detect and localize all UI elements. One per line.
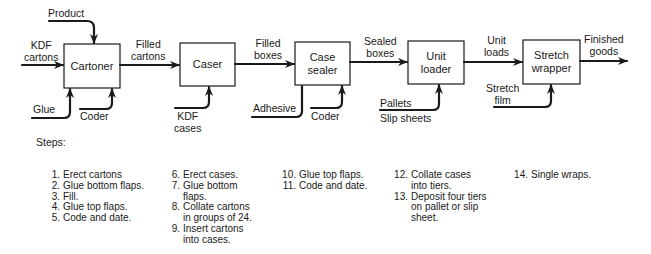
machine-label: Cartoner [71,60,114,73]
step-text: Insert cartons into cases. [183,224,244,246]
step-item: 13.Deposit four tiers on pallet or slip … [390,192,487,224]
steps-column-2: 6.Erect cases.7.Glue bottom flaps.8.Coll… [166,170,252,246]
step-text: Deposit four tiers on pallet or slip she… [411,192,487,224]
filled-cartons-label: Filled cartons [131,38,165,62]
stretch-film-label: Stretch film [486,82,519,106]
coder1-label: Coder [80,110,109,122]
caser-label: Caser [180,43,235,86]
step-number: 11. [278,181,299,192]
kdf-cartons-label: KDF cartons [24,39,58,63]
step-number: 8. [166,202,183,224]
pallets-label: Pallets [380,97,412,109]
step-item: 7.Glue bottom flaps. [166,181,252,203]
step-text: Single wraps. [531,170,591,181]
step-text: Collate cartons in groups of 24. [183,202,252,224]
step-number: 14. [510,170,531,181]
step-item: 11.Code and date. [278,181,367,192]
step-item: 8.Collate cartons in groups of 24. [166,202,252,224]
step-number: 7. [166,181,183,203]
sealed-boxes-label: Sealed boxes [364,35,397,59]
machine-label: Caser [193,58,222,71]
step-text: Code and date. [299,181,367,192]
step-text: Glue bottom flaps. [63,181,144,192]
slip-sheets-label: Slip sheets [380,112,431,124]
glue-label: Glue [33,103,55,115]
unit-loads-label: Unit loads [484,34,509,58]
steps-column-1: 1.Erect cartons2.Glue bottom flaps.3.Fil… [46,170,144,224]
coder1-arrow [80,89,112,109]
kdf-cases-arrow [175,87,209,108]
steps-column-5: 14.Single wraps. [510,170,591,181]
coder2-arrow [311,86,342,108]
step-number: 12. [390,170,411,192]
step-text: Collate cases into tiers. [411,170,471,192]
steps-column-4: 12.Collate cases into tiers.13.Deposit f… [390,170,487,224]
cartoner-label: Cartoner [64,44,120,88]
stretch-wrapper-label: Stretch wrapper [523,40,580,84]
machine-label: Stretch wrapper [532,49,572,75]
step-item: 2.Glue bottom flaps. [46,181,144,192]
coder2-label: Coder [311,110,340,122]
step-number: 13. [390,192,411,224]
finished-goods-label: Finished goods [584,33,624,57]
adhesive-label: Adhesive [253,102,296,114]
steps-column-3: 10.Glue top flaps.11.Code and date. [278,170,367,192]
step-number: 2. [46,181,63,192]
step-text: Glue bottom flaps. [183,181,237,203]
kdf-cases-label: KDF cases [174,110,201,134]
step-number: 9. [166,224,183,246]
machine-label: Case sealer [308,51,338,77]
step-item: 5.Code and date. [46,213,144,224]
product-label: Product [48,7,84,19]
machine-label: Unit loader [421,50,452,76]
case-sealer-label: Case sealer [295,42,350,85]
filled-boxes-label: Filled boxes [254,37,282,61]
steps-heading: Steps: [36,136,66,148]
step-number: 5. [46,213,63,224]
step-item: 14.Single wraps. [510,170,591,181]
step-item: 12.Collate cases into tiers. [390,170,487,192]
unit-loader-label: Unit loader [408,41,464,84]
step-text: Code and date. [63,213,131,224]
step-item: 9.Insert cartons into cases. [166,224,252,246]
